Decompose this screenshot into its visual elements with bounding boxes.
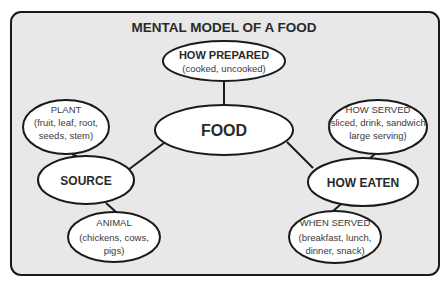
- mental-model-diagram: MENTAL MODEL OF A FOOD HOW PREPARED (coo…: [0, 0, 447, 283]
- node-how-eaten: HOW EATEN: [308, 158, 418, 206]
- node-label: HOW SERVED: [346, 104, 411, 115]
- node-label: PLANT: [51, 104, 82, 115]
- node-detail-line-1: (breakfast, lunch,: [299, 232, 372, 243]
- node-plant: PLANT (fruit, leaf, root, seeds, stem): [23, 100, 109, 154]
- node-detail-line-1: (fruit, leaf, root,: [34, 117, 98, 128]
- diagram-title: MENTAL MODEL OF A FOOD: [132, 20, 317, 35]
- node-label: WHEN SERVED: [300, 217, 371, 228]
- node-detail-line-2: large serving): [349, 130, 407, 141]
- node-detail: (cooked, uncooked): [182, 63, 265, 74]
- node-detail-line-2: seeds, stem): [39, 130, 93, 141]
- node-detail-line-2: pigs): [104, 245, 125, 256]
- node-detail-line-1: (chickens, cows,: [79, 232, 149, 243]
- node-food: FOOD: [155, 105, 293, 155]
- node-label: HOW PREPARED: [179, 49, 269, 61]
- node-label: HOW EATEN: [327, 176, 399, 190]
- node-animal: ANIMAL (chickens, cows, pigs): [68, 212, 160, 262]
- node-how-served: HOW SERVED (sliced, drink, sandwich, lar…: [328, 100, 429, 154]
- node-label: ANIMAL: [96, 217, 131, 228]
- node-label: SOURCE: [60, 174, 111, 188]
- node-detail-line-1: (sliced, drink, sandwich,: [328, 117, 429, 128]
- node-when-served: WHEN SERVED (breakfast, lunch, dinner, s…: [289, 211, 381, 263]
- node-detail-line-2: dinner, snack): [305, 245, 364, 256]
- node-how-prepared: HOW PREPARED (cooked, uncooked): [163, 41, 285, 81]
- node-source: SOURCE: [38, 156, 134, 204]
- node-label: FOOD: [201, 122, 247, 139]
